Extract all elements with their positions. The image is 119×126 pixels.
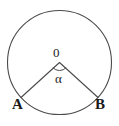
- radius-line-oa: [21, 63, 60, 98]
- radius-line-ob: [60, 63, 99, 98]
- center-point-label: 0: [53, 46, 60, 59]
- point-a-label: A: [12, 97, 23, 112]
- circle-angle-diagram: 0 α A B: [0, 0, 119, 126]
- angle-alpha-label: α: [55, 72, 62, 85]
- point-b-label: B: [95, 97, 105, 112]
